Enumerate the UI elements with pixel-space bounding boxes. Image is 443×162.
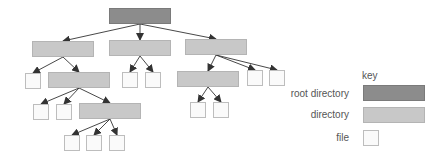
edge-arrow [208, 87, 221, 102]
edge-arrow [79, 88, 110, 103]
directory-node-d1 [32, 41, 94, 57]
file-node-f2 [122, 72, 138, 88]
file-node-f10 [64, 135, 80, 151]
edge-arrow [208, 55, 216, 71]
file-node-f5 [269, 70, 285, 86]
file-node-f1 [25, 73, 41, 89]
edge-arrow [216, 55, 255, 70]
root-node-root [109, 8, 171, 24]
edge-arrow [64, 88, 79, 104]
edge-arrow [63, 24, 140, 41]
key-swatch-file [363, 130, 379, 146]
directory-node-d2 [109, 40, 171, 56]
directory-node-d6 [79, 103, 141, 119]
directory-tree-diagram: key root directory directory file [0, 0, 443, 162]
directory-node-d5 [177, 71, 239, 87]
edge-arrow [63, 57, 79, 72]
file-node-f6 [33, 104, 49, 120]
key-label-directory: directory [249, 109, 349, 120]
edge-arrow [140, 24, 216, 39]
edge-arrow [33, 57, 63, 73]
edge-arrow [140, 56, 153, 72]
directory-node-d3 [185, 39, 247, 55]
edge-arrow [41, 88, 79, 104]
edge-arrow [94, 119, 110, 135]
key-label-root-directory: root directory [249, 88, 349, 99]
key-swatch-root-directory [363, 85, 425, 101]
file-node-f9 [213, 102, 229, 118]
edge-arrow [216, 55, 277, 70]
file-node-f11 [86, 135, 102, 151]
edge-arrow [130, 56, 140, 72]
key-title: key [362, 70, 378, 81]
file-node-f3 [145, 72, 161, 88]
edge-arrow [198, 87, 208, 102]
key-swatch-directory [363, 107, 425, 123]
key-label-file: file [249, 132, 349, 143]
file-node-f4 [247, 70, 263, 86]
file-node-f7 [56, 104, 72, 120]
directory-node-d4 [48, 72, 110, 88]
edge-arrow [72, 119, 110, 135]
file-node-f12 [109, 135, 125, 151]
file-node-f8 [190, 102, 206, 118]
edge-arrow [110, 119, 117, 135]
